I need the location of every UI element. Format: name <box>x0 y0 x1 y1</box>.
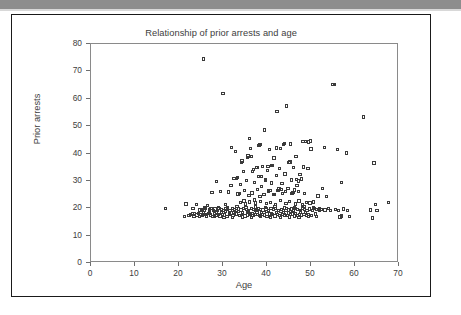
page-top-bar <box>0 0 461 9</box>
x-axis-tick <box>134 262 135 266</box>
data-point <box>271 164 274 167</box>
data-point <box>259 200 262 203</box>
data-point <box>289 142 292 145</box>
y-axis-tick <box>86 153 90 154</box>
data-point <box>250 216 253 219</box>
y-axis-tick <box>86 180 90 181</box>
data-point <box>235 205 238 208</box>
data-point <box>248 137 251 140</box>
data-point <box>264 206 267 209</box>
data-point <box>246 156 249 159</box>
data-point <box>257 144 260 147</box>
data-point <box>262 193 265 196</box>
data-point <box>307 215 310 218</box>
data-point <box>290 192 293 195</box>
data-point <box>310 214 313 217</box>
y-axis-tick <box>86 235 90 236</box>
data-point <box>369 208 372 211</box>
data-point <box>302 205 305 208</box>
data-point <box>303 192 306 195</box>
data-point <box>234 150 237 153</box>
data-point <box>259 215 262 218</box>
data-point <box>270 212 273 215</box>
data-point <box>297 179 300 182</box>
data-point <box>284 190 287 193</box>
y-axis-tick <box>86 207 90 208</box>
y-axis-title: Prior arrests <box>32 64 42 174</box>
y-axis-tick-label: 30 <box>42 175 82 185</box>
data-point <box>260 175 263 178</box>
data-point <box>348 215 351 218</box>
data-point <box>191 207 194 210</box>
data-point <box>312 200 315 203</box>
data-point <box>275 211 278 214</box>
x-axis-tick-label: 30 <box>207 268 237 278</box>
data-point <box>275 174 278 177</box>
data-point <box>235 177 238 180</box>
page-top-bar-shadow <box>0 9 461 11</box>
data-point <box>279 216 282 219</box>
data-point <box>228 212 231 215</box>
data-point <box>256 188 259 191</box>
x-axis-tick-label: 10 <box>119 268 149 278</box>
data-point <box>309 139 312 142</box>
data-point <box>249 147 252 150</box>
data-point <box>293 188 296 191</box>
data-point <box>375 209 378 212</box>
data-point <box>227 190 230 193</box>
chart-title: Relationship of prior arrests and age <box>11 28 431 38</box>
data-point <box>232 211 235 214</box>
data-point <box>230 146 233 149</box>
y-axis-tick <box>86 70 90 71</box>
x-axis-tick <box>310 262 311 266</box>
x-axis-tick <box>354 262 355 266</box>
data-point <box>202 211 205 214</box>
data-point <box>346 209 349 212</box>
page-canvas: Relationship of prior arrests and age 01… <box>0 0 461 315</box>
data-point <box>345 151 348 154</box>
y-axis-tick <box>86 43 90 44</box>
data-point <box>247 194 250 197</box>
y-axis-tick-label: 80 <box>42 38 82 48</box>
data-point <box>279 199 282 202</box>
data-point <box>372 161 375 164</box>
data-point <box>263 128 266 131</box>
data-point <box>282 143 285 146</box>
data-point <box>219 190 222 193</box>
data-point <box>248 200 251 203</box>
data-point <box>245 179 248 182</box>
data-point <box>244 206 247 209</box>
data-point <box>297 199 300 202</box>
data-point <box>295 184 298 187</box>
data-point <box>261 165 264 168</box>
x-axis-tick <box>178 262 179 266</box>
data-point <box>184 202 187 205</box>
data-point <box>254 201 257 204</box>
data-point <box>299 210 302 213</box>
data-point <box>288 200 291 203</box>
x-axis-tick-label: 20 <box>163 268 193 278</box>
data-point <box>221 92 224 95</box>
data-point <box>318 207 321 210</box>
data-point <box>243 189 246 192</box>
data-point <box>210 191 213 194</box>
data-point <box>241 211 244 214</box>
data-point <box>279 188 282 191</box>
data-point <box>251 170 254 173</box>
data-point <box>362 115 365 118</box>
x-axis-tick <box>398 262 399 266</box>
data-point <box>253 198 256 201</box>
data-point <box>304 211 307 214</box>
data-point <box>289 210 292 213</box>
data-point <box>340 181 343 184</box>
x-axis-tick <box>90 262 91 266</box>
data-point <box>266 169 269 172</box>
x-axis-tick-label: 50 <box>295 268 325 278</box>
data-point <box>195 203 198 206</box>
plot-area <box>90 43 398 262</box>
data-point <box>250 212 253 215</box>
data-point <box>215 210 218 213</box>
data-point <box>217 206 220 209</box>
data-point <box>293 206 296 209</box>
y-axis-tick <box>86 125 90 126</box>
